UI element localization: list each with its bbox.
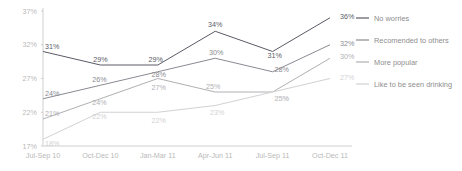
data-label: 21% bbox=[45, 109, 60, 118]
legend-label: Like to be seen drinking bbox=[374, 80, 452, 89]
data-label: 25% bbox=[206, 82, 221, 91]
data-label: 29% bbox=[149, 55, 164, 64]
legend-label: More popular bbox=[374, 58, 418, 67]
data-label: 34% bbox=[208, 20, 223, 29]
x-tick-label: Oct-Dec 10 bbox=[82, 151, 118, 160]
data-label: 28% bbox=[152, 70, 167, 79]
chart-canvas: 17%22%27%32%37% Jul-Sep 10Oct-Dec 10Jan-… bbox=[0, 0, 462, 171]
data-label: 31% bbox=[267, 51, 282, 60]
legend-label: Recomended to others bbox=[374, 36, 449, 45]
axis-lines bbox=[43, 8, 352, 146]
data-label: 27% bbox=[340, 73, 355, 82]
series-lines bbox=[43, 18, 330, 140]
y-tick-label: 17% bbox=[23, 142, 38, 151]
x-tick-label: Jan-Mar 11 bbox=[140, 151, 176, 160]
x-tick-label: Oct-Dec 11 bbox=[312, 151, 348, 160]
data-label: 24% bbox=[45, 89, 60, 98]
data-label: 36% bbox=[340, 12, 355, 21]
series-line-0 bbox=[43, 18, 330, 65]
data-label: 24% bbox=[92, 98, 107, 107]
data-label: 28% bbox=[274, 65, 289, 74]
y-tick-label: 37% bbox=[23, 7, 38, 16]
chart-legend: No worriesRecomended to othersMore popul… bbox=[356, 14, 452, 89]
series-line-3 bbox=[43, 79, 330, 140]
data-label: 31% bbox=[45, 42, 60, 51]
data-label: 26% bbox=[92, 75, 107, 84]
data-labels: 31%29%29%34%31%36%24%26%28%30%28%32%21%2… bbox=[45, 12, 355, 149]
data-label: 18% bbox=[45, 139, 60, 148]
line-chart: 17%22%27%32%37% Jul-Sep 10Oct-Dec 10Jan-… bbox=[0, 0, 462, 171]
x-tick-label: Jul-Sep 11 bbox=[256, 151, 290, 160]
x-axis: Jul-Sep 10Oct-Dec 10Jan-Mar 11Apr-Jun 11… bbox=[26, 151, 348, 160]
x-tick-label: Jul-Sep 10 bbox=[26, 151, 60, 160]
x-tick-label: Apr-Jun 11 bbox=[198, 151, 233, 160]
data-label: 23% bbox=[210, 108, 225, 117]
data-label: 32% bbox=[340, 39, 355, 48]
y-tick-label: 32% bbox=[23, 40, 38, 49]
y-tick-label: 22% bbox=[23, 108, 38, 117]
data-label: 30% bbox=[340, 52, 355, 61]
data-label: 22% bbox=[92, 112, 107, 121]
data-label: 22% bbox=[152, 116, 167, 125]
data-label: 27% bbox=[152, 83, 167, 92]
data-label: 25% bbox=[274, 94, 289, 103]
y-axis: 17%22%27%32%37% bbox=[23, 7, 43, 151]
y-tick-label: 27% bbox=[23, 74, 38, 83]
data-label: 29% bbox=[93, 55, 108, 64]
legend-label: No worries bbox=[374, 14, 410, 23]
data-label: 30% bbox=[209, 48, 224, 57]
